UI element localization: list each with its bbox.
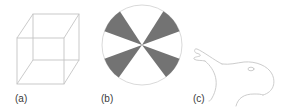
panel-label-c: (c) <box>193 94 205 104</box>
illusion-figures <box>0 0 293 108</box>
necker-cube-icon <box>17 14 79 84</box>
panel-label-a: (a) <box>15 94 27 104</box>
panel-label-b: (b) <box>101 94 113 104</box>
duck-rabbit-icon <box>194 49 274 106</box>
sector-disc-icon <box>102 5 182 85</box>
